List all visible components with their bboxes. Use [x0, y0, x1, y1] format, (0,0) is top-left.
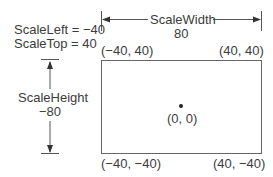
scale-width-value: 80 [174, 27, 188, 41]
scale-width-label: ScaleWidth [150, 13, 216, 27]
arrowhead-right-icon [253, 17, 261, 23]
corner-top-left-label: (−40, 40) [101, 44, 153, 58]
corner-top-right-label: (40, 40) [219, 44, 264, 58]
scale-top-label: ScaleTop = 40 [14, 37, 97, 51]
center-label: (0, 0) [167, 112, 197, 126]
center-point-icon [179, 104, 183, 108]
scale-height-label: ScaleHeight [18, 91, 88, 105]
scale-height-value: −80 [39, 105, 61, 119]
arrowhead-down-icon [47, 145, 53, 153]
corner-bottom-right-label: (40, −40) [213, 157, 265, 171]
scale-left-label: ScaleLeft = −40 [14, 23, 105, 37]
corner-bottom-left-label: (−40, −40) [101, 157, 161, 171]
arrowhead-up-icon [47, 61, 53, 69]
